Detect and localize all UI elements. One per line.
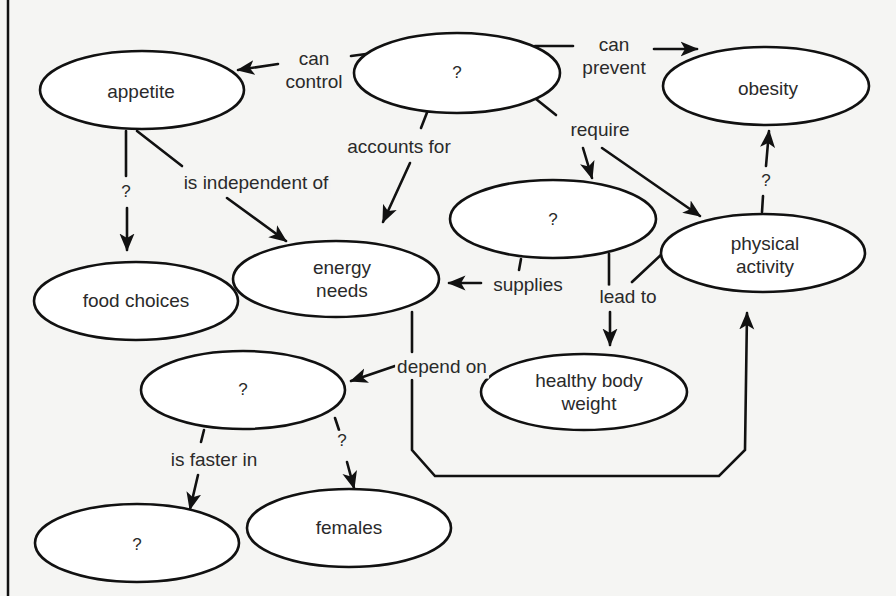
edge-faster-in-tail	[201, 430, 204, 442]
link-can-prevent: can prevent	[580, 34, 647, 80]
node-healthy-body-weight: healthy body weight	[535, 370, 643, 416]
node-obesity: obesity	[738, 78, 798, 101]
link-lead-to: lead to	[597, 286, 658, 309]
node-physical-activity-line2: activity	[731, 256, 800, 279]
edge-accounts-for-tail	[421, 110, 428, 128]
edge-lower-q-arrow	[347, 462, 354, 488]
link-can-control-line2: control	[285, 71, 342, 94]
node-females: females	[316, 517, 383, 540]
edge-physical-q-tail	[762, 196, 763, 212]
edge-faster-in-arrow	[190, 475, 198, 509]
node-physical-activity-line1: physical	[731, 233, 800, 256]
node-mid-unknown: ?	[548, 210, 557, 230]
edge-require-tail	[536, 99, 556, 115]
link-can-prevent-line1: can	[582, 34, 645, 57]
link-is-independent-of: is independent of	[182, 172, 331, 195]
node-appetite: appetite	[107, 81, 175, 104]
link-appetite-q: ?	[119, 182, 132, 202]
node-physical-activity: physical activity	[731, 233, 800, 279]
edge-supplies-tail	[519, 259, 521, 270]
edge-depend-on-arrow-lower	[351, 366, 395, 381]
edge-lower-q-tail	[335, 418, 339, 430]
edge-physical-q-arrow	[766, 131, 769, 166]
node-energy-needs-line1: energy	[313, 257, 371, 280]
node-food-choices: food choices	[83, 290, 190, 313]
node-top-unknown: ?	[452, 63, 461, 83]
edge-lead-to-from-physical	[632, 253, 663, 282]
edge-independent-arrow	[227, 198, 286, 241]
link-can-control-line1: can	[285, 48, 342, 71]
node-bottom-unknown: ?	[132, 535, 141, 555]
concept-map: ? appetite obesity ? physical activity f…	[0, 0, 896, 596]
node-healthy-body-weight-line2: weight	[535, 393, 643, 416]
link-require: require	[568, 119, 631, 142]
node-lower-unknown: ?	[238, 380, 247, 400]
node-energy-needs-line2: needs	[313, 280, 371, 303]
link-can-prevent-line2: prevent	[582, 57, 645, 80]
link-lower-q: ?	[335, 431, 348, 451]
edge-accounts-for-arrow	[383, 163, 410, 222]
node-healthy-body-weight-line1: healthy body	[535, 370, 643, 393]
link-can-control: can control	[283, 48, 344, 94]
link-supplies: supplies	[491, 274, 565, 297]
link-is-faster-in: is faster in	[169, 449, 260, 472]
edge-require-arrow-mid	[583, 148, 592, 178]
link-physical-q: ?	[759, 171, 772, 191]
edge-independent-tail	[137, 131, 182, 166]
link-accounts-for: accounts for	[345, 136, 453, 159]
edge-can-control-arrow	[238, 64, 278, 70]
node-energy-needs: energy needs	[313, 257, 371, 303]
link-depend-on: depend on	[395, 356, 489, 379]
